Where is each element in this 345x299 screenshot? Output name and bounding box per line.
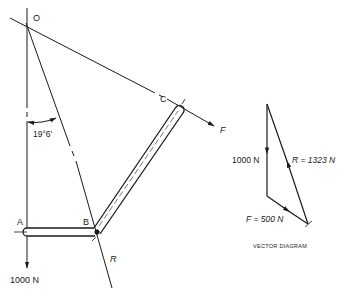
point-O-label: O [33,13,40,23]
vector-diagram-labels: 1000 N R = 1323 N F = 500 N VECTOR DIAGR… [232,155,336,249]
force-F-line-of-action [10,18,155,93]
bar-BC-centerline [99,111,178,226]
point-B-label: B [83,217,89,227]
vector-load-label: 1000 N [232,155,259,165]
force-diagram: O 19°6′ C F A B R 1000 N 1000 N R = 1323… [0,0,345,299]
vector-R-label: R = 1323 N [292,155,336,165]
space-diagram-labels: O 19°6′ C F A B R 1000 N [10,13,226,285]
reaction-R-dash [72,151,74,156]
bar-BC [94,105,184,234]
reaction-R-label: R [110,254,117,264]
vector-diagram-title: VECTOR DIAGRAM [253,243,307,249]
force-F-line-2 [167,99,214,126]
load-label: 1000 N [10,275,39,285]
force-F-label: F [220,125,226,135]
space-diagram [10,8,214,288]
point-C-label: C [160,94,167,104]
vector-F-label: F = 500 N [246,214,284,224]
bar-AB [23,228,95,236]
pin-B-tick [92,237,96,241]
reaction-R-line-upper [26,23,70,146]
angle-label: 19°6′ [33,129,53,139]
vector-diagram [267,104,312,227]
angle-arc [28,118,56,123]
point-A-label: A [17,217,23,227]
bar-BC-extension [182,99,185,104]
pin-B [95,230,99,234]
vector-R-tail [305,221,312,227]
